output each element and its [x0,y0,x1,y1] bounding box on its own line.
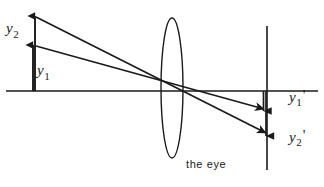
ray-y1 [36,46,264,109]
label-object-y2-sub: 2 [13,28,19,40]
label-object-y2: y2 [6,20,19,40]
label-image-y1-prime-mark: ' [302,87,306,103]
label-object-y2-base: y [6,20,13,36]
label-object-y1: y1 [37,62,50,82]
label-image-y1-prime-sub: 1 [296,96,302,108]
label-object-y1-sub: 1 [44,70,50,82]
eye-ray-diagram: y2 y1 y1' y2' the eye [0,0,324,187]
label-image-y2-prime-sub: 2 [296,136,302,148]
label-the-eye: the eye [186,159,226,170]
label-image-y2-prime-base: y [289,129,296,145]
label-image-y1-prime: y1' [289,88,305,108]
label-object-y1-base: y [37,62,44,78]
label-image-y1-prime-base: y [289,89,296,105]
eye-lens-ellipse [161,18,183,158]
diagram-canvas [0,0,324,187]
label-image-y2-prime: y2' [289,128,305,148]
ray-y2 [36,17,266,133]
label-image-y2-prime-mark: ' [302,127,306,143]
